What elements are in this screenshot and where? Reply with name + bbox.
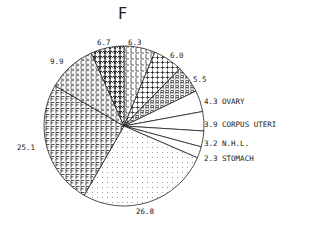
slice-label: 5.5 [193, 75, 207, 84]
slice-label: 3.2 N.H.L. [204, 139, 249, 148]
slice-label: 4.3 OVARY [204, 97, 245, 106]
slice-label: 9.9 [50, 57, 64, 66]
slice-label: 25.1 [17, 143, 35, 152]
slice-label: 3.9 CORPUS UTERI [204, 120, 276, 129]
pie-chart: 6.36.05.54.3 OVARY3.9 CORPUS UTERI3.2 N.… [0, 0, 315, 230]
slice-label: 6.3 [128, 38, 142, 47]
slice-label: 2.3 STOMACH [204, 154, 254, 163]
slice-label: 26.8 [136, 207, 155, 216]
pie-slices [44, 46, 204, 206]
slice-label: 6.0 [170, 51, 184, 60]
slice-label: 6.7 [97, 38, 111, 47]
